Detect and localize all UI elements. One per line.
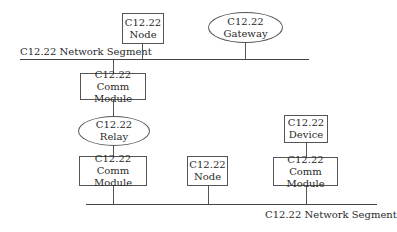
comm-module-right-line2: Module — [286, 178, 324, 190]
top-node-line1: C12.22 — [125, 17, 161, 29]
relay-line2: Relay — [100, 131, 128, 143]
top-node-box: C12.22 Node — [122, 13, 164, 44]
top-segment-label: C12.22 Network Segment — [20, 46, 152, 58]
bottom-node-line1: C12.22 — [189, 159, 225, 171]
comm-module-upper-box: C12.22 Comm Module — [80, 73, 146, 100]
comm-module-right-box: C12.22 Comm Module — [273, 157, 338, 186]
comm-module-upper-line2: Module — [94, 93, 132, 105]
bottom-segment-label: C12.22 Network Segment — [265, 209, 397, 221]
comm-module-left-line1: C12.22 Comm — [80, 153, 146, 177]
gateway-line2: Gateway — [223, 28, 267, 40]
relay-line1: C12.22 — [96, 119, 132, 131]
top-node-line2: Node — [129, 29, 156, 41]
relay-ellipse: C12.22 Relay — [78, 116, 150, 146]
comm-module-upper-line1: C12.22 Comm — [81, 69, 145, 93]
connector-gateway — [245, 42, 246, 59]
device-line1: C12.22 — [288, 117, 324, 129]
gateway-line1: C12.22 — [227, 16, 263, 28]
bottom-network-segment-line — [86, 204, 377, 205]
comm-module-left-box: C12.22 Comm Module — [79, 156, 147, 186]
top-network-segment-line — [20, 59, 309, 60]
gateway-ellipse: C12.22 Gateway — [208, 12, 283, 43]
bottom-node-box: C12.22 Node — [187, 156, 228, 186]
device-box: C12.22 Device — [284, 115, 328, 143]
connector-bottom-node — [208, 186, 209, 204]
device-line2: Device — [289, 129, 323, 141]
comm-module-right-line1: C12.22 Comm — [274, 154, 337, 178]
bottom-node-line2: Node — [194, 171, 221, 183]
comm-module-left-line2: Module — [94, 177, 132, 189]
connector-top-node — [142, 44, 143, 59]
